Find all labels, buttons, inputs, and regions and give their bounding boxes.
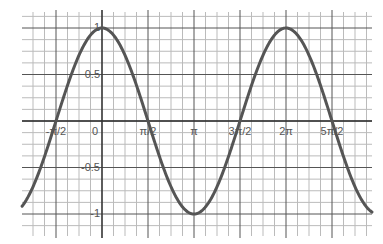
- y-tick-label: -0.5: [81, 162, 100, 173]
- x-tick-label: 0: [92, 126, 98, 137]
- axes: [22, 10, 372, 238]
- x-tick-label: 3π/2: [229, 126, 252, 137]
- x-tick-label: 5π/2: [321, 126, 344, 137]
- minor-grid: [22, 12, 372, 236]
- cosine-chart: [0, 0, 383, 244]
- y-tick-label: 0.5: [85, 69, 100, 80]
- y-tick-label: -1: [90, 208, 100, 219]
- major-grid: [22, 10, 372, 238]
- x-tick-label: π: [190, 126, 198, 137]
- x-tick-label: π/2: [140, 126, 157, 137]
- x-tick-label: -π/2: [46, 126, 66, 137]
- y-tick-label: 1: [94, 22, 100, 33]
- x-tick-label: 2π: [279, 126, 293, 137]
